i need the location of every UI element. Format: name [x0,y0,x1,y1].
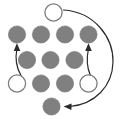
diagram-svg [0,0,121,119]
n-r3-c2[interactable] [32,75,49,92]
n-r2-c4[interactable] [66,51,83,68]
n-r1-c4[interactable] [80,26,97,43]
arrow-left-up-head-icon [14,43,21,51]
arrow-right-up-head-icon [85,43,92,51]
n-r2-c2[interactable] [18,51,35,68]
n-r3-c4[interactable] [80,75,97,92]
n-top-hole[interactable] [45,4,62,21]
diagram-canvas [0,0,121,119]
n-r2-c3[interactable] [42,51,59,68]
node-layer [8,4,97,115]
n-bottom-peg[interactable] [43,98,60,115]
arrow-right-up [87,49,90,76]
n-r1-c1[interactable] [8,26,25,43]
n-r1-c2[interactable] [32,26,49,43]
n-r3-c3[interactable] [56,75,73,92]
n-r3-c1[interactable] [8,75,25,92]
arrow-outer-loop-head-icon [64,104,72,111]
n-r1-c3[interactable] [56,26,73,43]
